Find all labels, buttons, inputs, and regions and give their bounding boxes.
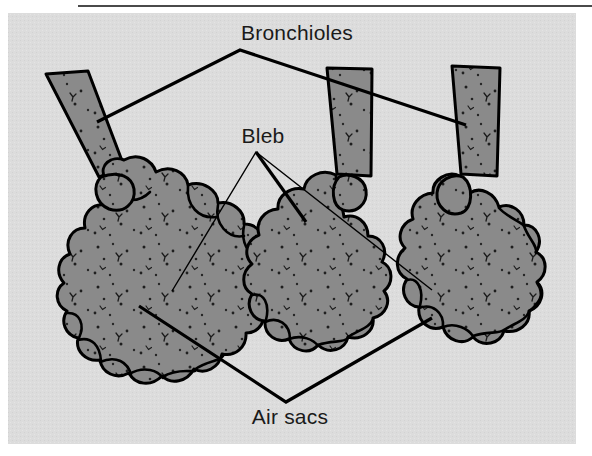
figure-root: Bronchioles Bleb Air sacs <box>0 0 592 456</box>
label-bleb: Bleb <box>242 124 285 147</box>
anatomy-diagram: Bronchioles Bleb Air sacs <box>0 0 592 456</box>
label-bronchioles: Bronchioles <box>241 21 353 44</box>
bleb-right <box>437 176 471 214</box>
bleb-left <box>96 174 134 210</box>
bleb-middle <box>333 175 366 211</box>
bronchiole-tube-right <box>452 66 500 176</box>
label-air-sacs: Air sacs <box>252 405 328 428</box>
